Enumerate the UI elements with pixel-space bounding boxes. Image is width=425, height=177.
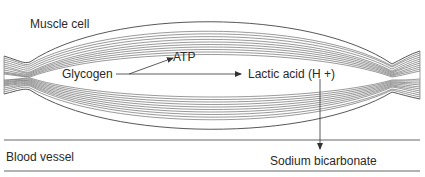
label-glycogen: Glycogen [62,68,113,80]
label-muscle-cell: Muscle cell [30,18,89,30]
label-sodium-bicarbonate: Sodium bicarbonate [270,155,377,167]
label-blood-vessel: Blood vessel [6,151,74,163]
muscle-cell-diagram: Muscle cell ATP Glycogen Lactic acid (H … [0,0,425,177]
arrow-glycogen-to-atp [129,58,173,74]
label-lactic-acid: Lactic acid (H +) [248,68,335,80]
muscle-fiber-bottom-bundle [4,78,420,120]
label-atp: ATP [173,51,195,63]
